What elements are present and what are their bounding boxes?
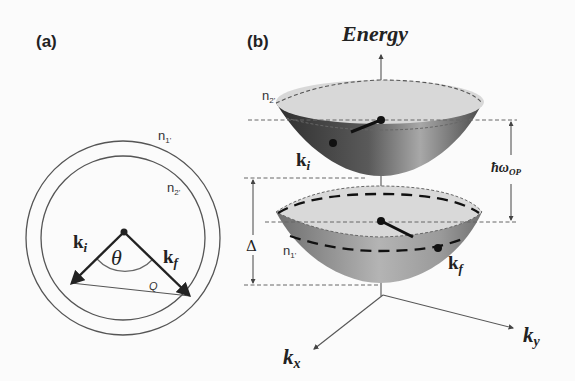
lower-band-label: n1' bbox=[283, 243, 297, 260]
kx-label: kx bbox=[283, 345, 301, 371]
outer-circle-n1 bbox=[26, 141, 220, 335]
theta-label: θ bbox=[111, 245, 122, 270]
ky-axis bbox=[383, 295, 513, 328]
inner-circle-label: n2' bbox=[167, 180, 181, 197]
ki-label-a: ki bbox=[73, 231, 88, 255]
ki-electron-dot bbox=[329, 139, 337, 147]
upper-band-label: n2' bbox=[262, 88, 276, 105]
lower-origin-dot bbox=[377, 217, 385, 225]
kf-label-a: kf bbox=[163, 246, 180, 270]
outer-circle-label: n1' bbox=[158, 128, 172, 145]
kf-electron-dot bbox=[434, 244, 442, 252]
upper-origin-dot bbox=[377, 116, 385, 124]
ki-label-b: ki bbox=[296, 149, 311, 173]
phonon-energy-label: ħωOP bbox=[491, 160, 521, 177]
kx-axis bbox=[314, 295, 383, 349]
panel-b-label: (b) bbox=[247, 32, 269, 51]
figure-stage: (a) n1' n2' ki kf θ Q (b) Energy n2' ki … bbox=[0, 0, 575, 381]
theta-arc bbox=[97, 259, 153, 271]
ky-label: ky bbox=[523, 323, 541, 349]
q-label: Q bbox=[149, 280, 158, 292]
upper-band-rim-back bbox=[276, 80, 482, 103]
figure-svg: (a) n1' n2' ki kf θ Q (b) Energy n2' ki … bbox=[0, 0, 575, 381]
kf-label-b: kf bbox=[448, 252, 465, 276]
q-vector-line bbox=[71, 283, 190, 296]
energy-axis-label: Energy bbox=[341, 21, 408, 46]
panel-a-label: (a) bbox=[36, 32, 57, 51]
gap-label: Δ bbox=[246, 237, 257, 255]
origin-dot bbox=[121, 229, 128, 236]
